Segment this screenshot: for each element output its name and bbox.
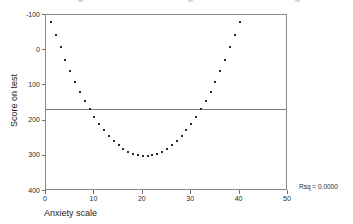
x-tick-label: 0 xyxy=(35,195,55,202)
data-point xyxy=(60,46,62,48)
y-tick-label: -100 xyxy=(26,11,40,18)
data-point xyxy=(142,155,144,157)
data-point xyxy=(210,91,212,93)
clipped-header-strip xyxy=(0,0,353,5)
data-point xyxy=(190,123,192,125)
y-tick-label: 200 xyxy=(28,116,40,123)
data-point xyxy=(93,116,95,118)
data-point xyxy=(113,140,115,142)
x-tick-label: 10 xyxy=(83,195,103,202)
data-point xyxy=(74,81,76,83)
data-point xyxy=(171,144,173,146)
data-point xyxy=(108,135,110,137)
data-point xyxy=(195,116,197,118)
data-point xyxy=(151,154,153,156)
data-point xyxy=(69,70,71,72)
x-tick-label: 40 xyxy=(229,195,249,202)
data-point xyxy=(50,21,52,23)
data-point xyxy=(239,21,241,23)
data-point xyxy=(200,108,202,110)
data-point xyxy=(127,151,129,153)
rsq-annotation: Rsq = 0.0000 xyxy=(299,183,338,190)
data-point xyxy=(132,153,134,155)
x-tick-mark xyxy=(142,190,143,194)
data-point xyxy=(166,148,168,150)
data-point xyxy=(234,34,236,36)
data-point xyxy=(118,144,120,146)
x-tick-mark xyxy=(45,190,46,194)
y-tick-label: 300 xyxy=(28,151,40,158)
y-tick-label: 0 xyxy=(36,46,40,53)
data-point xyxy=(64,59,66,61)
plot-area xyxy=(45,14,287,190)
x-tick-mark xyxy=(190,190,191,194)
x-tick-mark xyxy=(287,190,288,194)
data-point xyxy=(205,100,207,102)
y-tick-label: 400 xyxy=(28,187,40,194)
data-point xyxy=(176,140,178,142)
data-point xyxy=(84,100,86,102)
x-tick-mark xyxy=(239,190,240,194)
x-tick-label: 20 xyxy=(132,195,152,202)
x-axis-title: Anxiety scale xyxy=(44,209,97,218)
x-tick-label: 50 xyxy=(277,195,297,202)
data-point xyxy=(89,108,91,110)
y-axis-title: Score on test xyxy=(10,56,19,146)
data-point xyxy=(55,34,57,36)
data-point xyxy=(219,70,221,72)
x-tick-label: 30 xyxy=(180,195,200,202)
scatter-chart: 4003002001000-100 01020304050 Score on t… xyxy=(0,0,353,224)
data-point xyxy=(137,154,139,156)
mean-reference-line xyxy=(46,109,286,110)
data-point xyxy=(156,153,158,155)
data-point xyxy=(79,91,81,93)
data-point xyxy=(185,129,187,131)
y-tick-label: 100 xyxy=(28,81,40,88)
data-point xyxy=(224,59,226,61)
data-point xyxy=(98,123,100,125)
data-point xyxy=(161,151,163,153)
data-point xyxy=(147,155,149,157)
x-tick-mark xyxy=(93,190,94,194)
data-point xyxy=(122,148,124,150)
data-point xyxy=(214,81,216,83)
data-point xyxy=(103,129,105,131)
data-point xyxy=(229,46,231,48)
data-point xyxy=(181,135,183,137)
